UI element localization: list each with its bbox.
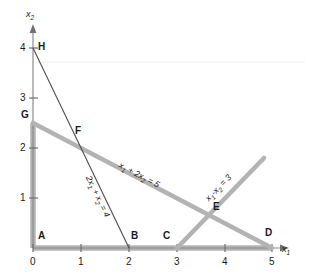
point-label-b: B [131,231,138,241]
y-axis-title: x2 [26,9,34,23]
x-tick-label-4: 4 [222,257,228,267]
y-tick-label-1: 1 [20,193,26,203]
x-tick-label-1: 1 [78,257,84,267]
x-axis-title-sub: 1 [287,249,291,256]
y-tick-label-3: 3 [20,93,26,103]
constraint-line-2x1-plus-x2 [33,48,129,248]
point-label-d: D [265,228,272,238]
y-tick-label-2: 2 [20,143,26,153]
point-label-f: F [75,126,81,136]
point-label-c: C [163,231,170,241]
y-axis-arrowhead [30,24,37,33]
point-label-a: A [38,231,45,241]
plot-canvas [0,0,310,279]
x-tick-label-3: 3 [174,257,180,267]
linear-programming-figure: A B C D E F G H 0 1 2 3 4 5 1 2 3 4 x1 x… [0,0,310,279]
y-axis-title-sub: 2 [31,14,35,21]
point-label-h: H [38,42,45,52]
x-tick-label-5: 5 [269,257,275,267]
y-tick-label-4: 4 [20,43,26,53]
x-tick-label-0: 0 [30,257,36,267]
x-tick-label-2: 2 [126,257,132,267]
x-axis-title: x1 [282,244,290,258]
point-label-g: G [21,110,29,120]
